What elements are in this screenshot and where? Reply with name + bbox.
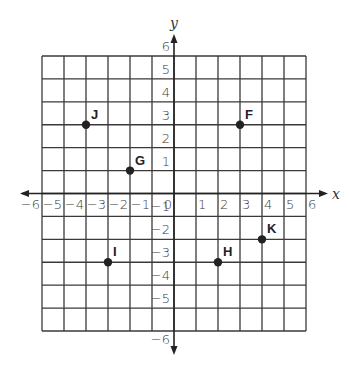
point-label-f: F xyxy=(245,107,253,122)
axes: xy xyxy=(20,15,340,355)
y-tick-label: 5 xyxy=(162,62,170,77)
x-tick-label: 1 xyxy=(198,197,206,212)
y-axis-label: y xyxy=(169,15,179,31)
y-axis-up-arrow-icon xyxy=(171,34,178,43)
point-g xyxy=(126,166,134,174)
y-tick-label: −2 xyxy=(151,222,170,237)
x-tick-label: −4 xyxy=(65,197,84,212)
point-j xyxy=(82,121,90,129)
y-tick-label: −3 xyxy=(151,245,170,260)
point-k xyxy=(258,235,266,243)
point-label-g: G xyxy=(135,153,145,168)
y-tick-label: −6 xyxy=(151,332,170,347)
x-axis-label: x xyxy=(332,186,340,202)
y-tick-label: 3 xyxy=(162,108,170,123)
point-label-k: K xyxy=(267,221,277,236)
point-label-i: I xyxy=(113,244,117,259)
x-tick-label: −2 xyxy=(109,197,128,212)
x-tick-label: 4 xyxy=(264,197,272,212)
coordinate-plane-figure: xy −6−5−4−3−2−10123456123456−1−2−3−4−5−6… xyxy=(0,0,349,375)
y-tick-label: −1 xyxy=(151,199,170,214)
x-tick-label: 5 xyxy=(286,197,294,212)
y-tick-label: 6 xyxy=(162,39,170,54)
coordinate-plane: xy −6−5−4−3−2−10123456123456−1−2−3−4−5−6… xyxy=(0,0,349,375)
y-axis-down-arrow-icon xyxy=(171,346,178,355)
point-f xyxy=(236,121,244,129)
y-tick-label: −4 xyxy=(151,268,170,283)
x-tick-label: −3 xyxy=(87,197,106,212)
x-tick-label: −5 xyxy=(43,197,62,212)
y-tick-label: 2 xyxy=(162,131,170,146)
x-tick-label: 2 xyxy=(220,197,228,212)
plotted-points: JGFIHK xyxy=(82,107,277,267)
x-tick-label: −6 xyxy=(21,197,40,212)
y-tick-label: 1 xyxy=(162,154,170,169)
x-axis-right-arrow-icon xyxy=(319,190,328,197)
x-tick-label: 3 xyxy=(242,197,250,212)
point-h xyxy=(214,258,222,266)
point-label-h: H xyxy=(223,244,232,259)
y-tick-label: −5 xyxy=(151,291,170,306)
y-tick-label: 4 xyxy=(162,85,170,100)
point-label-j: J xyxy=(91,107,98,122)
x-tick-label: −1 xyxy=(131,197,150,212)
x-tick-label: 6 xyxy=(308,197,316,212)
point-i xyxy=(104,258,112,266)
